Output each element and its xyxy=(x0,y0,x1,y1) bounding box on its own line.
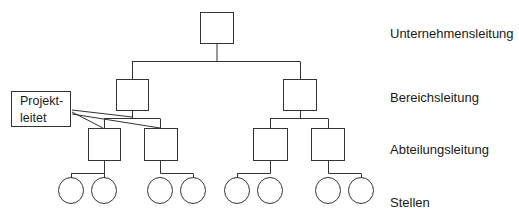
node-abteilungsleitung-1 xyxy=(89,129,121,161)
node-stelle-8 xyxy=(349,178,374,204)
label-stellen: Stellen xyxy=(390,195,430,210)
callout-line-2: leitet xyxy=(20,110,70,127)
node-unternehmensleitung xyxy=(201,13,234,44)
node-abteilungsleitung-4 xyxy=(312,129,345,161)
callout-line-1: Projekt- xyxy=(20,93,70,110)
node-bereichsleitung-2 xyxy=(284,80,317,111)
node-stelle-7 xyxy=(316,178,341,204)
node-abteilungsleitung-2 xyxy=(145,129,178,161)
node-stelle-1 xyxy=(59,178,84,204)
node-stelle-2 xyxy=(92,178,117,204)
node-stelle-4 xyxy=(181,178,206,204)
callout-projektleitet: Projekt- leitet xyxy=(11,91,71,127)
node-stelle-5 xyxy=(225,178,250,204)
label-abteilungsleitung: Abteilungsleitung xyxy=(390,142,489,157)
label-bereichsleitung: Bereichsleitung xyxy=(390,90,479,105)
node-bereichsleitung-1 xyxy=(117,80,149,111)
stellen-group xyxy=(59,178,374,204)
node-abteilungsleitung-3 xyxy=(254,129,288,161)
node-stelle-6 xyxy=(258,178,283,204)
node-stelle-3 xyxy=(148,178,173,204)
label-unternehmensleitung: Unternehmensleitung xyxy=(390,26,514,41)
